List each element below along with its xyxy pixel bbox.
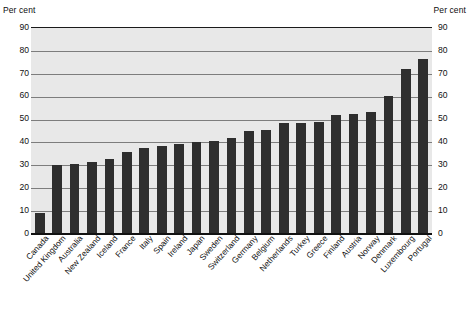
y-tick-label: 50 bbox=[5, 114, 29, 123]
bar-slot bbox=[240, 27, 257, 233]
bar bbox=[418, 59, 428, 233]
bar-slot bbox=[188, 27, 205, 233]
bar bbox=[401, 69, 411, 233]
y-tick-label: 40 bbox=[438, 137, 462, 146]
bar-slot bbox=[293, 27, 310, 233]
y-tick-label: 0 bbox=[5, 229, 29, 238]
bar-slot bbox=[223, 27, 240, 233]
y-tick-label: 70 bbox=[438, 69, 462, 78]
bar-slot bbox=[66, 27, 83, 233]
y-tick-label: 70 bbox=[5, 69, 29, 78]
bar-slot bbox=[205, 27, 222, 233]
y-tick-label: 40 bbox=[5, 137, 29, 146]
bar-slot bbox=[258, 27, 275, 233]
y-tick-label: 80 bbox=[438, 46, 462, 55]
y-tick-label: 60 bbox=[438, 91, 462, 100]
x-axis-category-labels: CanadaUnited KingdomAustraliaNew Zealand… bbox=[31, 234, 432, 310]
bar-slot bbox=[136, 27, 153, 233]
bar-slot bbox=[415, 27, 432, 233]
y-tick-label: 90 bbox=[438, 23, 462, 32]
bar-slot bbox=[362, 27, 379, 233]
bar-slot bbox=[170, 27, 187, 233]
y-tick-label: 60 bbox=[5, 91, 29, 100]
bar bbox=[157, 146, 167, 233]
bar-slot bbox=[397, 27, 414, 233]
y-tick-label: 80 bbox=[5, 46, 29, 55]
y-tick-label: 30 bbox=[5, 160, 29, 169]
y-tick-label: 20 bbox=[438, 183, 462, 192]
y-axis-unit-label-left: Per cent bbox=[3, 5, 35, 15]
bar-slot bbox=[380, 27, 397, 233]
bar-slot bbox=[48, 27, 65, 233]
y-tick-label: 20 bbox=[5, 183, 29, 192]
bar-slot bbox=[327, 27, 344, 233]
bar-slot bbox=[31, 27, 48, 233]
y-tick-label: 10 bbox=[5, 206, 29, 215]
y-axis-unit-label-right: Per cent bbox=[434, 5, 466, 15]
bar-slot bbox=[345, 27, 362, 233]
y-tick-label: 50 bbox=[438, 114, 462, 123]
bar bbox=[35, 213, 45, 233]
bar bbox=[384, 96, 394, 233]
bar-slot bbox=[153, 27, 170, 233]
bar-chart: Per cent Per cent 9080706050403020100 90… bbox=[0, 0, 469, 310]
y-tick-label: 90 bbox=[5, 23, 29, 32]
y-tick-label: 30 bbox=[438, 160, 462, 169]
bar-slot bbox=[101, 27, 118, 233]
bar-slot bbox=[275, 27, 292, 233]
